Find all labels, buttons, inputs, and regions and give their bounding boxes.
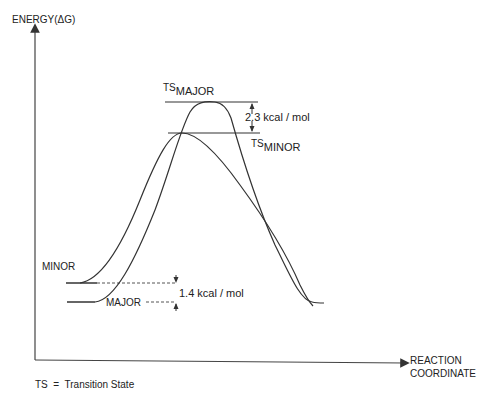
ts-minor-label: TSMINOR <box>251 138 300 149</box>
x-axis <box>35 360 405 363</box>
minor-pathway-curve <box>80 133 313 306</box>
major-label: MAJOR <box>106 298 141 308</box>
energy-diagram <box>0 0 490 402</box>
ground-gap-label: 1.4 kcal / mol <box>179 288 244 299</box>
x-axis-label-line1: REACTION <box>410 356 462 366</box>
minor-label: MINOR <box>42 262 75 272</box>
ts-major-label: TSMAJOR <box>163 82 214 93</box>
y-axis-label: ENERGY(ΔG) <box>12 15 75 25</box>
x-axis-label-line2: COORDINATE <box>410 369 476 379</box>
major-pathway-curve <box>95 102 324 303</box>
ts-gap-label: 2.3 kcal / mol <box>245 112 310 123</box>
footnote: TS = Transition State <box>35 380 134 390</box>
